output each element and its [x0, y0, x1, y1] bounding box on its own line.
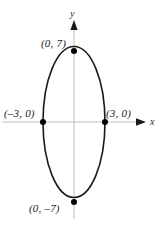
- vertex-label-bottom: (0, –7): [29, 202, 60, 214]
- vertex-point-left: [40, 119, 46, 125]
- vertex-label-top: (0, 7): [41, 37, 66, 49]
- vertex-point-bottom: [71, 199, 77, 205]
- x-axis-arrow-icon: [136, 118, 146, 126]
- x-axis-label: x: [150, 117, 154, 127]
- vertex-point-top: [71, 48, 77, 54]
- y-axis-label: y: [70, 9, 74, 19]
- y-axis-arrow-icon: [70, 20, 77, 30]
- ellipse-figure: (0, 7) (0, –7) (–3, 0) (3, 0) x y: [0, 0, 166, 225]
- vertex-point-right: [102, 119, 108, 125]
- vertex-label-left: (–3, 0): [4, 107, 35, 119]
- vertex-label-right: (3, 0): [106, 107, 131, 119]
